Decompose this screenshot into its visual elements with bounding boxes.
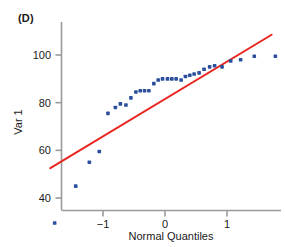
data-point	[106, 112, 110, 116]
data-point	[88, 160, 92, 164]
data-point	[179, 78, 183, 82]
x-axis-tick-labels: −101	[97, 218, 230, 230]
data-point	[143, 89, 147, 93]
data-point	[197, 71, 201, 75]
data-point	[119, 102, 123, 106]
data-point	[152, 82, 156, 86]
data-point	[124, 103, 128, 107]
data-point	[213, 64, 217, 68]
y-axis-tick-labels: 406080100	[33, 49, 51, 204]
data-point	[156, 78, 160, 82]
data-point	[174, 77, 178, 81]
data-point	[53, 221, 57, 225]
x-tick-label: 0	[162, 218, 168, 230]
y-tick-label: 60	[39, 144, 51, 156]
data-point	[114, 106, 118, 110]
x-tick-label: 1	[224, 218, 230, 230]
data-point	[188, 73, 192, 77]
data-point	[138, 89, 142, 93]
data-point	[166, 77, 170, 81]
data-point	[192, 72, 196, 76]
data-point	[229, 59, 233, 63]
data-point	[129, 96, 133, 100]
x-axis-ticks	[103, 211, 227, 217]
data-point-series	[53, 54, 277, 224]
reference-line	[50, 35, 271, 168]
x-tick-label: −1	[97, 218, 110, 230]
data-point	[208, 65, 212, 69]
data-point	[170, 77, 174, 81]
data-point	[239, 58, 243, 62]
y-axis-ticks	[56, 55, 62, 198]
y-tick-label: 80	[39, 97, 51, 109]
data-point	[274, 54, 278, 58]
axes	[56, 22, 282, 217]
y-tick-label: 40	[39, 192, 51, 204]
y-axis-title: Var 1	[12, 109, 24, 134]
plot-canvas: 406080100 −101 Var 1 Normal Quantiles	[0, 0, 285, 247]
data-point	[252, 54, 256, 58]
y-tick-label: 100	[33, 49, 51, 61]
data-point	[184, 75, 188, 79]
data-point	[147, 89, 151, 93]
data-point	[134, 90, 138, 94]
data-point	[202, 68, 206, 72]
data-point	[74, 184, 78, 188]
data-point	[220, 65, 224, 69]
data-point	[97, 150, 101, 154]
data-point	[161, 77, 165, 81]
qq-plot-figure: (D) 406080100 −101 Var 1 Normal Quantile…	[0, 0, 285, 247]
x-axis-title: Normal Quantiles	[129, 230, 214, 242]
